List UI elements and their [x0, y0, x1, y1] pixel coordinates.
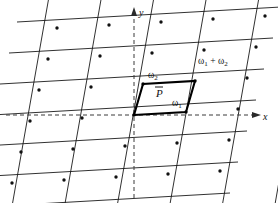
lattice-line-shallow — [17, 7, 278, 22]
lattice-figure: y x ω2 ω1 ω1 + ω2 P — [0, 0, 278, 203]
lattice-node — [159, 20, 162, 23]
y-axis-label: y — [138, 7, 144, 18]
lattice-node — [89, 85, 92, 88]
diagram-labels: y x ω2 ω1 ω1 + ω2 P — [138, 7, 268, 122]
lattice-line-shallow — [0, 69, 264, 84]
lattice-node — [62, 178, 65, 181]
lattice-node — [80, 116, 83, 119]
lattice-node — [55, 26, 58, 29]
lattice-node — [236, 107, 239, 110]
x-axis-arrow-icon — [252, 112, 261, 118]
lattice-node — [107, 23, 110, 26]
omega-sum-label: ω1 + ω2 — [198, 56, 228, 68]
lattice-node — [254, 45, 257, 48]
lattice-axes — [6, 7, 261, 198]
lattice-line-steep — [0, 0, 4, 203]
lattice-node — [10, 181, 13, 184]
lattice-node — [37, 88, 40, 91]
lattice-node — [218, 169, 221, 172]
lattice-node — [28, 119, 31, 122]
lattice-node — [150, 51, 153, 54]
omega2-label: ω2 — [148, 70, 158, 82]
lattice-line-steep — [271, 0, 278, 203]
lattice-diagram-svg: y x ω2 ω1 ω1 + ω2 P — [0, 0, 278, 203]
lattice-line-shallow — [0, 162, 238, 177]
x-axis-label: x — [262, 111, 268, 122]
omega1-label: ω1 — [172, 98, 182, 110]
y-axis-arrow-icon — [131, 7, 137, 16]
cell-boundary — [134, 81, 195, 115]
lattice-node — [46, 57, 49, 60]
lattice-line-shallow — [0, 193, 230, 203]
lattice-node — [202, 48, 205, 51]
region-label-p: P — [155, 87, 163, 99]
lattice-node — [227, 138, 230, 141]
lattice-node — [71, 147, 74, 150]
lattice-node — [114, 175, 117, 178]
lattice-node — [166, 172, 169, 175]
lattice-node — [245, 76, 248, 79]
lattice-node — [175, 141, 178, 144]
fundamental-parallelogram — [134, 81, 195, 115]
lattice-node — [263, 14, 266, 17]
lattice-line-shallow — [9, 38, 273, 53]
lattice-node — [123, 144, 126, 147]
lattice-node — [211, 17, 214, 20]
lattice-line-shallow — [0, 100, 256, 115]
lattice-line-shallow — [0, 131, 247, 146]
lattice-node — [98, 54, 101, 57]
lattice-node — [19, 150, 22, 153]
lattice-line-steep — [63, 0, 108, 203]
